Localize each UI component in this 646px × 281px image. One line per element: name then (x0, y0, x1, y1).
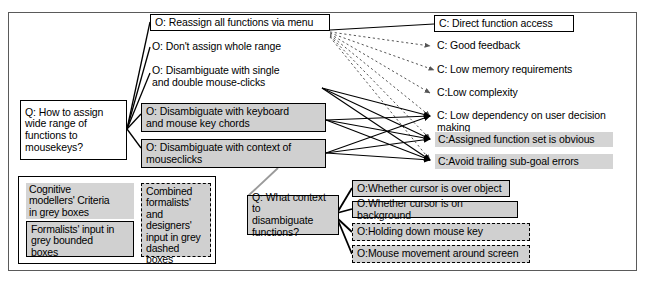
criterion-node-direct-function-access[interactable]: C: Direct function access (434, 15, 574, 32)
legend-item-grey-boxes: Cognitive modellers' Criteria in grey bo… (26, 183, 134, 219)
criterion-node-assigned-set-obvious[interactable]: C:Assigned function set is obvious (435, 132, 613, 147)
option-node-keyboard-mouse-chords[interactable]: O: Disambiguate with keyboard and mouse … (141, 103, 326, 132)
criterion-node-good-feedback[interactable]: C: Good feedback (437, 40, 617, 54)
legend-item-grey-dashed-boxes: Combined formalists' and designers' inpu… (141, 183, 211, 257)
option-node-mouse-movement[interactable]: O:Mouse movement around screen (352, 245, 530, 263)
question-node-main[interactable]: Q: How to assign wide range of functions… (20, 100, 127, 160)
criterion-node-avoid-subgoal-errors[interactable]: C:Avoid trailing sub-goal errors (435, 154, 613, 169)
option-node-context-of-mouseclicks[interactable]: O: Disambiguate with context of mousecli… (141, 139, 326, 168)
legend-item-grey-bounded-boxes: Formalists' input in grey bounded boxes (26, 221, 134, 257)
question-node-context[interactable]: Q: What context to disambiguate function… (247, 195, 339, 235)
option-node-single-double-clicks[interactable]: O: Disambiguate with single and double m… (152, 65, 332, 91)
criterion-node-low-memory-requirements[interactable]: C: Low memory requirements (437, 64, 627, 78)
option-node-reassign-via-menu[interactable]: O: Reassign all functions via menu (150, 14, 330, 31)
option-node-holding-mouse-key[interactable]: O:Holding down mouse key (352, 223, 530, 241)
criterion-node-low-complexity[interactable]: C:Low complexity (437, 87, 617, 101)
option-node-cursor-over-object[interactable]: O:Whether cursor is over object (352, 180, 510, 197)
diagram-canvas: Q: How to assign wide range of functions… (0, 0, 646, 281)
legend-container: Cognitive modellers' Criteria in grey bo… (18, 176, 216, 264)
option-node-cursor-on-background[interactable]: O:Whether cursor is on background (352, 201, 518, 218)
option-node-dont-assign-whole-range[interactable]: O: Don't assign whole range (152, 41, 332, 55)
criterion-node-low-dependency[interactable]: C: Low dependency on user decision makin… (437, 110, 637, 124)
